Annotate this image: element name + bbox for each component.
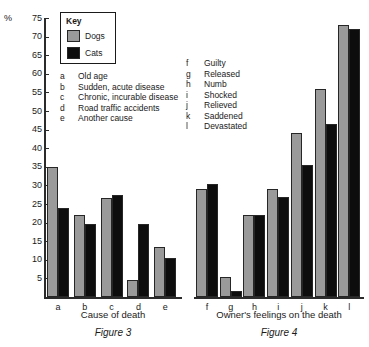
y-axis-label-60: 60 xyxy=(12,69,42,78)
bar-b-cats xyxy=(85,224,96,297)
key-label-dogs: Dogs xyxy=(85,32,105,41)
key-label-cats: Cats xyxy=(85,49,102,58)
bar-group-i xyxy=(267,18,291,297)
chart-figure-pair: % 75706560555045403530252015105 abcde fg… xyxy=(0,0,369,347)
bar-group-d xyxy=(126,18,153,297)
bar-f-dogs xyxy=(196,189,207,297)
bar-d-dogs xyxy=(127,280,138,297)
fig3-legend-key-a: a xyxy=(60,71,70,82)
bar-group-j xyxy=(291,18,315,297)
bar-j-cats xyxy=(302,165,313,297)
bar-i-dogs xyxy=(267,189,278,297)
fig3-legend-desc-d: Road traffic accidents xyxy=(78,103,160,114)
fig3-legend-desc-b: Sudden, acute disease xyxy=(78,82,164,93)
fig3-legend-key-d: d xyxy=(60,103,70,114)
y-axis-label-5: 5 xyxy=(12,274,42,283)
y-axis-label-20: 20 xyxy=(12,218,42,227)
y-axis-label-45: 45 xyxy=(12,125,42,134)
bar-d-cats xyxy=(138,224,149,297)
fig4-legend-key-f: f xyxy=(186,58,196,69)
chart-key-box: Key Dogs Cats xyxy=(60,12,116,64)
bar-c-cats xyxy=(112,195,123,297)
fig4-legend-desc-f: Guilty xyxy=(204,58,226,69)
bar-a-cats xyxy=(58,208,69,297)
fig3-legend-desc-e: Another cause xyxy=(78,113,133,124)
fig4-legend-key-j: j xyxy=(186,100,196,111)
key-swatch-cats xyxy=(67,47,80,59)
bar-e-dogs xyxy=(154,247,165,297)
bar-g-cats xyxy=(231,291,242,297)
fig4-caption: Figure 4 xyxy=(192,327,366,338)
bar-g-dogs xyxy=(220,277,231,297)
bar-l-dogs xyxy=(338,25,349,297)
bar-a-dogs xyxy=(47,167,58,297)
bar-j-dogs xyxy=(291,133,302,297)
fig4-legend-desc-j: Relieved xyxy=(204,100,237,111)
fig4-x-axis-line xyxy=(194,297,364,299)
fig3-legend-key-b: b xyxy=(60,82,70,93)
fig3-legend-desc-a: Old age xyxy=(78,71,108,82)
y-axis-label-10: 10 xyxy=(12,255,42,264)
fig4-legend-desc-i: Shocked xyxy=(204,90,237,101)
y-axis-percent-sign: % xyxy=(4,14,12,23)
bar-h-dogs xyxy=(243,215,254,297)
fig4-x-axis-title: Owner's feelings on the death xyxy=(192,309,366,320)
fig4-legend-key-k: k xyxy=(186,111,196,122)
fig4-legend-desc-g: Released xyxy=(204,69,240,80)
fig4-legend-key-h: h xyxy=(186,79,196,90)
bar-group-e xyxy=(153,18,180,297)
bar-h-cats xyxy=(254,215,265,297)
key-title: Key xyxy=(66,17,82,26)
y-axis-label-30: 30 xyxy=(12,181,42,190)
bar-f-cats xyxy=(207,184,218,297)
y-axis-label-15: 15 xyxy=(12,237,42,246)
y-axis-label-25: 25 xyxy=(12,200,42,209)
y-axis-label-55: 55 xyxy=(12,88,42,97)
y-axis-label-40: 40 xyxy=(12,144,42,153)
bar-k-cats xyxy=(326,124,337,297)
y-axis-label-75: 75 xyxy=(12,14,42,23)
fig4-legend-key-g: g xyxy=(186,69,196,80)
bar-c-dogs xyxy=(101,198,112,297)
bar-e-cats xyxy=(165,258,176,297)
bar-b-dogs xyxy=(74,215,85,297)
bar-group-l xyxy=(338,18,362,297)
bar-k-dogs xyxy=(315,89,326,297)
fig3-caption: Figure 3 xyxy=(46,327,180,338)
y-axis-label-65: 65 xyxy=(12,51,42,60)
bar-i-cats xyxy=(278,197,289,297)
key-swatch-dogs xyxy=(67,30,80,42)
y-axis-label-35: 35 xyxy=(12,162,42,171)
fig3-x-axis-title: Cause of death xyxy=(46,309,180,320)
bar-l-cats xyxy=(349,29,360,297)
bar-group-k xyxy=(315,18,339,297)
fig4-legend-key-l: l xyxy=(186,121,196,132)
fig4-legend-desc-k: Saddened xyxy=(204,111,243,122)
fig3-legend-key-e: e xyxy=(60,113,70,124)
fig3-legend-desc-c: Chronic, incurable disease xyxy=(78,92,178,103)
bar-group-h xyxy=(243,18,267,297)
y-axis-label-50: 50 xyxy=(12,107,42,116)
fig4-legend-desc-h: Numb xyxy=(204,79,227,90)
y-axis-label-70: 70 xyxy=(12,32,42,41)
fig3-x-axis-line xyxy=(44,297,182,299)
fig4-legend-key-i: i xyxy=(186,90,196,101)
fig3-legend-key-c: c xyxy=(60,92,70,103)
fig4-legend-desc-l: Devastated xyxy=(204,121,247,132)
